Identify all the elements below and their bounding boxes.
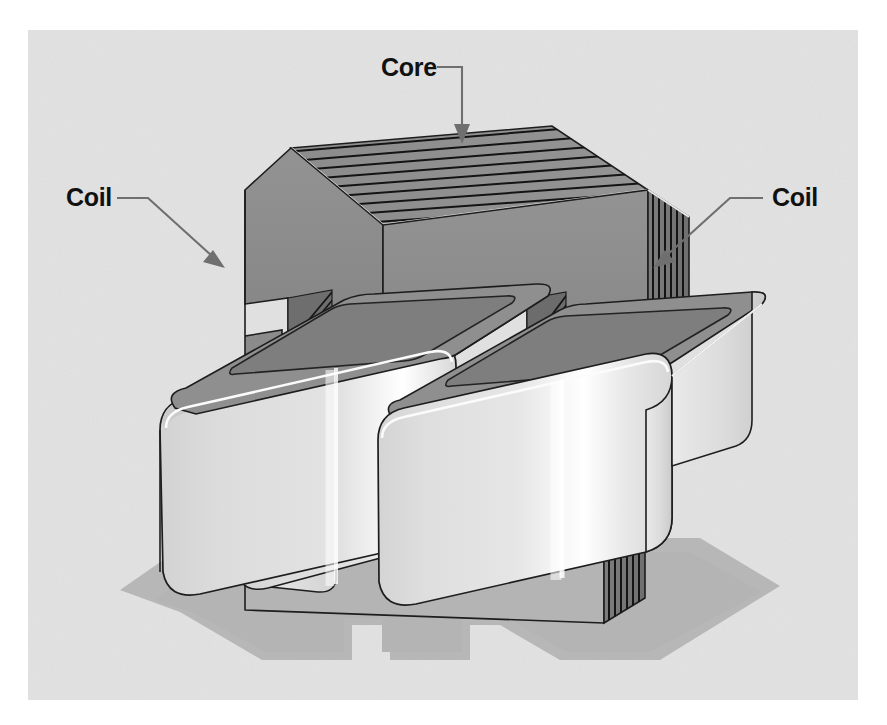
coil-right-label: Coil xyxy=(772,183,818,211)
core-label: Core xyxy=(381,53,437,81)
coil-left-label: Coil xyxy=(66,183,112,211)
figure-root: Core Coil Coil xyxy=(0,0,887,725)
transformer-diagram: Core Coil Coil xyxy=(0,0,887,725)
